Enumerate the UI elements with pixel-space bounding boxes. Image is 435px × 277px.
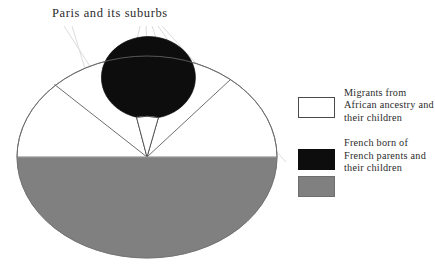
outer-slice-french-born	[17, 157, 277, 258]
legend-entry-migrants: Migrants from African ancestry and their…	[298, 86, 435, 124]
legend-label-french-born: French born of French parents and their …	[344, 136, 435, 174]
chart-title: Paris and its suburbs	[52, 6, 168, 21]
legend-entry-french-born: French born of French parents and their …	[298, 136, 435, 197]
legend-swatch-stack	[298, 147, 344, 197]
legend-swatch-white-wrap	[298, 86, 344, 118]
legend-label-migrants: Migrants from African ancestry and their…	[344, 86, 435, 124]
legend-swatch-white	[298, 97, 335, 118]
legend-swatch-gray	[298, 176, 335, 197]
legend-swatch-pair-wrap	[298, 136, 344, 197]
pie-chart-figure: Paris and its suburbs Migrants from Afri…	[0, 0, 435, 277]
legend-swatch-black	[298, 149, 335, 170]
legend: Migrants from African ancestry and their…	[298, 86, 435, 199]
